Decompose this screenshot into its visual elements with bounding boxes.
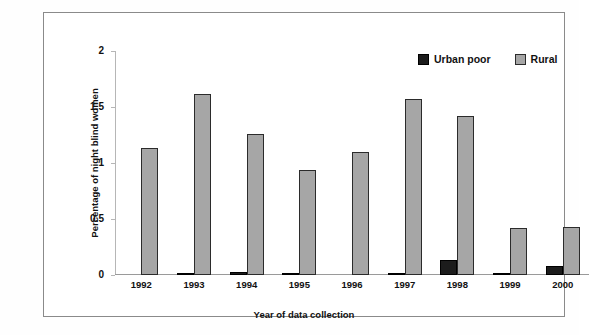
bar-group: [220, 51, 273, 275]
bar-rural-1992[interactable]: [141, 148, 158, 275]
bar-group: [168, 51, 221, 275]
bar-group: [484, 51, 537, 275]
x-tick-label-1992: 1992: [115, 279, 168, 290]
legend-swatch-icon: [515, 54, 526, 65]
y-tick-label: 1.5: [90, 102, 104, 112]
x-axis-title: Year of data collection: [44, 309, 564, 320]
bar-rural-1996[interactable]: [352, 152, 369, 275]
bar-rural-1998[interactable]: [457, 116, 474, 275]
legend-label: Rural: [531, 53, 558, 65]
bar-rural-2000[interactable]: [563, 227, 580, 275]
bar-group: [273, 51, 326, 275]
bar-urban-poor-1998[interactable]: [440, 260, 457, 275]
bar-group: [378, 51, 431, 275]
bar-group: [326, 51, 379, 275]
legend-entry-urban-poor[interactable]: Urban poor: [418, 53, 491, 65]
x-tick-label-1993: 1993: [168, 279, 221, 290]
y-tick-label: 1: [98, 158, 104, 168]
legend-entry-rural[interactable]: Rural: [515, 53, 558, 65]
bar-urban-poor-1995[interactable]: [282, 273, 299, 275]
chart-legend: Urban poorRural: [418, 53, 557, 65]
bar-rural-1995[interactable]: [299, 170, 316, 275]
bar-groups: [115, 51, 589, 275]
x-tick-labels: 199219931994199519961997199819992000: [115, 279, 589, 290]
bar-rural-1999[interactable]: [510, 228, 527, 275]
x-tick-label-1994: 1994: [220, 279, 273, 290]
y-tick-label: 0.5: [90, 214, 104, 224]
bar-rural-1993[interactable]: [194, 94, 211, 275]
x-tick-label-1996: 1996: [326, 279, 379, 290]
x-tick-label-1999: 1999: [484, 279, 537, 290]
bar-group: [115, 51, 168, 275]
bar-urban-poor-2000[interactable]: [546, 266, 563, 275]
bar-group: [536, 51, 589, 275]
x-tick-label-2000: 2000: [536, 279, 589, 290]
legend-swatch-icon: [418, 54, 429, 65]
bar-urban-poor-1999[interactable]: [493, 273, 510, 275]
x-tick-label-1998: 1998: [431, 279, 484, 290]
bar-rural-1997[interactable]: [405, 99, 422, 275]
bar-urban-poor-1997[interactable]: [388, 273, 405, 275]
x-tick-label-1995: 1995: [273, 279, 326, 290]
legend-label: Urban poor: [434, 53, 491, 65]
bar-rural-1994[interactable]: [247, 134, 264, 275]
bar-group: [431, 51, 484, 275]
chart-frame: Percentage of night blind women 00.511.5…: [43, 12, 565, 317]
y-tick-label: 2: [98, 46, 104, 56]
bar-urban-poor-1993[interactable]: [177, 273, 194, 275]
x-tick-label-1997: 1997: [378, 279, 431, 290]
y-tick-mark: 0: [111, 275, 115, 276]
bar-urban-poor-1994[interactable]: [230, 272, 247, 275]
y-tick-label: 0: [98, 270, 104, 280]
